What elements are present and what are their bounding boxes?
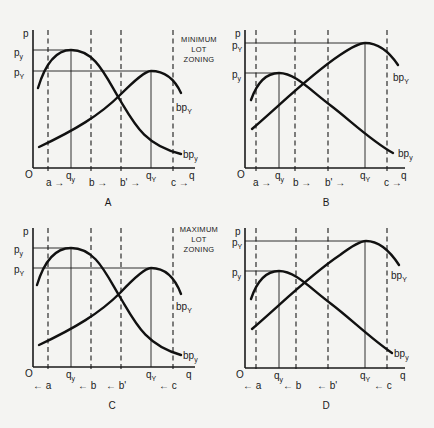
curve-label-bp-Y: bpY: [176, 301, 192, 314]
lot-zoning-figure: p py pY O qy qY q bpY bpy a → b → b' → c…: [0, 0, 434, 428]
curve-label-bp-y: bpy: [183, 149, 198, 163]
y-axis-label: p: [235, 28, 241, 39]
price-label-pY: pY: [232, 40, 243, 53]
y-axis-label: p: [23, 28, 29, 39]
boundary-label-b-prime: b' →: [120, 177, 140, 188]
panel-a: p py pY O qy qY q bpY bpy a → b → b' → c…: [14, 28, 217, 208]
annotation-line-2: LOT: [191, 235, 207, 244]
origin-label: O: [25, 169, 33, 180]
boundary-label-b: ← b: [283, 380, 302, 391]
curve-bp-y: [251, 73, 393, 153]
quantity-label-qy: qy: [66, 170, 76, 184]
curve-bp-Y: [252, 241, 399, 329]
x-axis-label: q: [400, 370, 406, 381]
panel-c: p py pY O qy qY q bpY bpy ← a ← b ← b' ←…: [14, 225, 218, 411]
price-label-py: py: [14, 244, 24, 258]
y-axis-label: p: [23, 226, 29, 237]
boundary-label-b: ← b: [78, 380, 97, 391]
panel-label-d: D: [322, 400, 329, 411]
quantity-label-qY: qY: [146, 170, 157, 183]
x-axis-label: q: [186, 369, 192, 380]
price-label-pY: pY: [14, 264, 25, 277]
boundary-label-c: ← c: [374, 380, 392, 391]
panel-label-c: C: [108, 400, 115, 411]
boundary-label-b-prime: ← b': [317, 380, 337, 391]
curve-label-bp-y: bpy: [183, 350, 198, 364]
quantity-label-qy: qy: [275, 170, 285, 184]
boundary-label-a: ← a: [33, 380, 52, 391]
annotation-line-2: LOT: [191, 45, 207, 54]
curve-label-bp-y: bpy: [394, 348, 409, 362]
boundary-label-a: ← a: [243, 380, 262, 391]
boundary-label-b-prime: ← b': [106, 380, 126, 391]
price-label-pY: pY: [232, 237, 243, 250]
annotation-line-1: MINIMUM: [181, 35, 217, 44]
curve-label-bp-y: bpy: [398, 148, 413, 162]
x-axis-label: q: [189, 170, 195, 181]
curve-label-bp-Y: bpY: [393, 72, 409, 85]
price-label-pY: pY: [14, 67, 25, 80]
curve-label-bp-Y: bpY: [391, 270, 407, 283]
origin-label: O: [236, 369, 244, 380]
panel-label-b: B: [323, 197, 330, 208]
boundary-label-a: a →: [46, 177, 64, 188]
annotation-line-3: ZONING: [184, 55, 215, 64]
boundary-label-b-prime: b' →: [325, 177, 345, 188]
price-label-py: py: [232, 267, 242, 281]
x-axis-label: q: [401, 170, 407, 181]
quantity-label-qy: qy: [66, 369, 76, 383]
price-label-py: py: [14, 47, 24, 61]
panel-label-a: A: [105, 197, 112, 208]
boundary-label-c: ← c: [159, 380, 177, 391]
boundary-label-c: c →: [384, 177, 402, 188]
boundary-label-b: b →: [89, 177, 107, 188]
curve-bp-Y: [252, 43, 398, 129]
annotation-line-3: ZONING: [184, 245, 215, 254]
origin-label: O: [237, 169, 245, 180]
quantity-label-qY: qY: [360, 370, 371, 383]
panel-b: p pY py O qy qY q bpY bpy a → b → b' → c…: [232, 28, 413, 208]
boundary-label-c: c →: [171, 177, 189, 188]
quantity-label-qY: qY: [146, 369, 157, 382]
curve-label-bp-Y: bpY: [176, 102, 192, 115]
panel-d: p pY py O qy qY q bpY bpy ← a ← b ← b' ←…: [232, 226, 409, 411]
quantity-label-qY: qY: [360, 170, 371, 183]
boundary-label-b: b →: [293, 177, 311, 188]
annotation-line-1: MAXIMUM: [180, 225, 218, 234]
price-label-py: py: [232, 69, 242, 83]
boundary-label-a: a →: [253, 177, 271, 188]
origin-label: O: [25, 368, 33, 379]
y-axis-label: p: [235, 226, 241, 237]
curve-bp-y: [38, 50, 181, 154]
